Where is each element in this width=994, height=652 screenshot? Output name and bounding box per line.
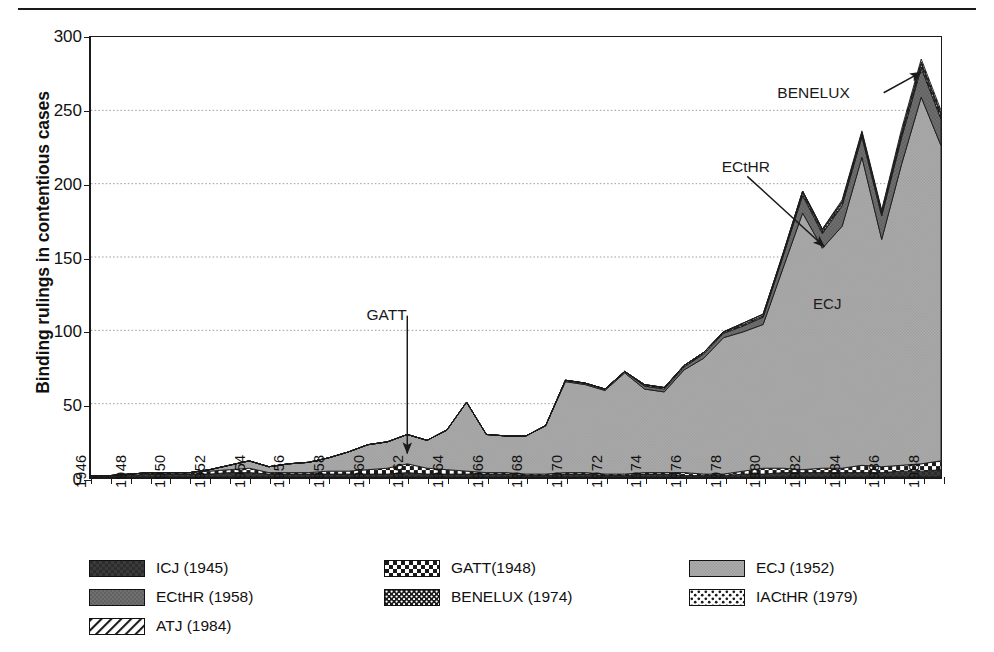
x-axis-tick-label: 1974 <box>628 455 644 488</box>
y-axis-tick <box>84 406 91 407</box>
x-axis-tick <box>845 477 846 484</box>
x-axis-tick <box>468 477 469 484</box>
y-axis-tick <box>84 185 91 186</box>
legend-label: GATT(1948) <box>451 559 536 577</box>
x-axis-tick-label: 1972 <box>589 455 605 488</box>
x-axis-tick <box>111 477 112 484</box>
legend-item[interactable]: ATJ (1984) <box>89 617 232 635</box>
y-axis-tick <box>84 111 91 112</box>
annotation-benelux: BENELUX <box>777 84 849 102</box>
y-axis-tick-label: 100 <box>54 322 82 342</box>
x-axis-tick <box>250 477 251 484</box>
x-axis-tick-label: 1946 <box>73 455 89 488</box>
x-axis-tick <box>527 477 528 484</box>
y-axis-tick <box>84 37 91 38</box>
stacked-area-svg <box>91 37 941 477</box>
y-axis-title: Binding rulings in contentious cases <box>33 28 54 458</box>
x-axis-tick <box>448 477 449 484</box>
x-axis-tick-label: 1948 <box>113 455 129 488</box>
legend-label: ECtHR (1958) <box>156 588 253 606</box>
x-axis-tick-label: 1964 <box>430 455 446 488</box>
y-axis-tick-label: 150 <box>54 249 82 269</box>
x-axis-tick <box>805 477 806 484</box>
legend-item[interactable]: BENELUX (1974) <box>384 588 572 606</box>
figure: Binding rulings in contentious cases 050… <box>0 0 994 652</box>
legend-swatch-checker-coarse <box>384 560 440 577</box>
x-axis-tick <box>686 477 687 484</box>
legend-item[interactable]: GATT(1948) <box>384 559 536 577</box>
legend-label: ATJ (1984) <box>156 617 232 635</box>
x-axis-tick-label: 1986 <box>866 455 882 488</box>
x-axis-tick-label: 1954 <box>232 455 248 488</box>
x-axis-tick-label: 1988 <box>906 455 922 488</box>
x-axis-tick <box>408 477 409 484</box>
y-axis-tick <box>84 332 91 333</box>
legend-swatch-solid-light <box>689 560 745 577</box>
plot-area: 0501001502002503001946194819501952195419… <box>89 36 942 479</box>
chart-legend: ICJ (1945)GATT(1948)ECJ (1952)ECtHR (195… <box>89 559 969 645</box>
x-axis-tick-label: 1978 <box>708 455 724 488</box>
x-axis-tick <box>369 477 370 484</box>
y-axis-tick-label: 250 <box>54 101 82 121</box>
x-axis-tick-label: 1956 <box>271 455 287 488</box>
x-axis-tick-label: 1970 <box>549 455 565 488</box>
x-axis-tick-label: 1980 <box>747 455 763 488</box>
x-axis-tick <box>607 477 608 484</box>
x-axis-tick <box>944 477 945 484</box>
legend-swatch-dots-sparse <box>689 589 745 606</box>
x-axis-tick <box>131 477 132 484</box>
legend-item[interactable]: IACtHR (1979) <box>689 588 858 606</box>
figure-top-rule <box>18 8 976 10</box>
annotation-ecthr: ECtHR <box>722 158 770 176</box>
x-axis-tick-label: 1982 <box>787 455 803 488</box>
legend-swatch-diagonal-hatch <box>89 618 145 635</box>
x-axis-tick <box>230 477 231 484</box>
legend-item[interactable]: ECtHR (1958) <box>89 588 253 606</box>
x-axis-tick-label: 1966 <box>470 455 486 488</box>
area-series <box>91 97 941 475</box>
legend-swatch-solid-mid <box>89 589 145 606</box>
x-axis-tick <box>210 477 211 484</box>
x-axis-tick <box>329 477 330 484</box>
x-axis-tick-label: 1976 <box>668 455 684 488</box>
x-axis-tick-label: 1984 <box>827 455 843 488</box>
x-axis-tick-label: 1952 <box>192 455 208 488</box>
y-axis-tick-label: 300 <box>54 27 82 47</box>
annotation-ecj: ECJ <box>813 295 841 312</box>
x-axis-tick <box>289 477 290 484</box>
annotation-gatt: GATT <box>367 306 407 324</box>
x-axis-tick <box>567 477 568 484</box>
legend-label: ICJ (1945) <box>156 559 228 577</box>
legend-swatch-solid-dark <box>89 560 145 577</box>
x-axis-tick-label: 1962 <box>390 455 406 488</box>
legend-swatch-checker-fine <box>384 589 440 606</box>
x-axis-tick <box>488 477 489 484</box>
x-axis-tick <box>706 477 707 484</box>
x-axis-tick <box>646 477 647 484</box>
x-axis-tick-label: 1960 <box>351 455 367 488</box>
x-axis-tick <box>587 477 588 484</box>
x-axis-tick <box>924 477 925 484</box>
legend-label: ECJ (1952) <box>756 559 834 577</box>
x-axis-tick <box>170 477 171 484</box>
x-axis-tick <box>726 477 727 484</box>
y-axis-tick-label: 200 <box>54 175 82 195</box>
x-axis-tick-label: 1950 <box>152 455 168 488</box>
legend-item[interactable]: ICJ (1945) <box>89 559 228 577</box>
x-axis-tick-label: 1958 <box>311 455 327 488</box>
x-axis-tick <box>825 477 826 484</box>
x-axis-tick <box>349 477 350 484</box>
x-axis-tick <box>765 477 766 484</box>
legend-item[interactable]: ECJ (1952) <box>689 559 834 577</box>
legend-label: IACtHR (1979) <box>756 588 858 606</box>
x-axis-tick-label: 1968 <box>509 455 525 488</box>
x-axis-tick <box>884 477 885 484</box>
legend-label: BENELUX (1974) <box>451 588 572 606</box>
x-axis-tick <box>91 477 92 484</box>
y-axis-tick <box>84 259 91 260</box>
y-axis-tick-label: 50 <box>63 396 82 416</box>
